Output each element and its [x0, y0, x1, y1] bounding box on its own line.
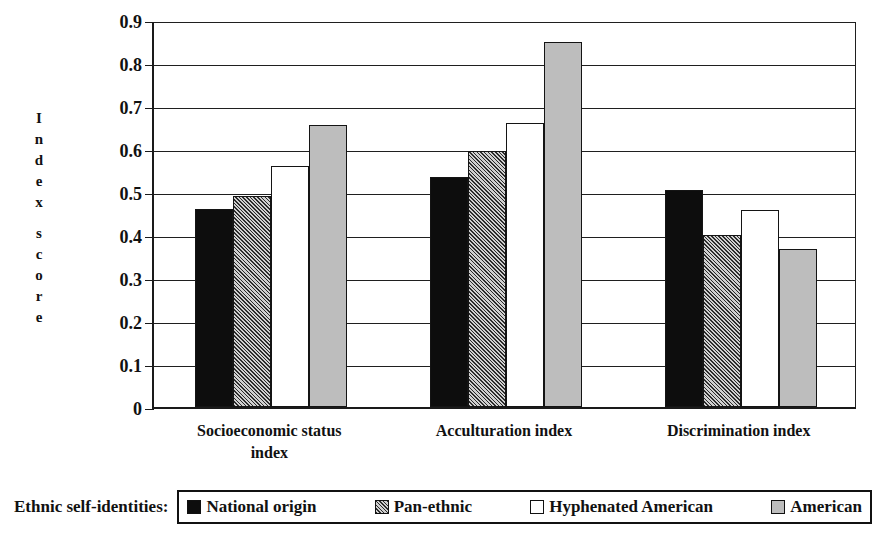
y-axis-title-letter: e [26, 171, 52, 192]
y-axis-tick-label: 0.1 [84, 357, 142, 375]
bar [544, 42, 582, 407]
y-axis-title-letter: n [26, 129, 52, 150]
y-axis-tick [145, 22, 154, 23]
bar [430, 177, 468, 407]
y-axis-title-letter: I [26, 108, 52, 129]
legend-item: American [771, 497, 862, 517]
legend-swatch-icon [187, 500, 201, 514]
y-axis-tick [145, 237, 154, 238]
legend-item: National origin [187, 497, 316, 517]
y-axis-tick [145, 151, 154, 152]
bar [468, 151, 506, 407]
y-axis-title-letter: c [26, 244, 52, 265]
y-axis-tick [145, 65, 154, 66]
bar [779, 249, 817, 407]
bar [703, 235, 741, 407]
legend-title: Ethnic self-identities: [14, 497, 168, 517]
y-axis-tick-label: 0.4 [84, 228, 142, 246]
y-axis-tick-label: 0.9 [84, 13, 142, 31]
y-axis-tick [145, 108, 154, 109]
legend-item-label: American [790, 497, 862, 517]
bar [665, 190, 703, 407]
legend-item: Hyphenated American [530, 497, 713, 517]
legend-item-label: Pan-ethnic [394, 497, 472, 517]
plot-area [152, 22, 856, 409]
y-axis-tick-label: 0.3 [84, 271, 142, 289]
bar [309, 125, 347, 407]
bar [271, 166, 309, 407]
x-axis-category-label: Socioeconomic status index [152, 420, 387, 464]
y-axis-title-letter: r [26, 286, 52, 307]
y-axis-title-letter: o [26, 265, 52, 286]
legend-item-label: Hyphenated American [549, 497, 713, 517]
bar [233, 196, 271, 407]
y-axis-title-spacer [26, 213, 52, 223]
bars-layer [154, 22, 856, 407]
y-axis-tick-label: 0.8 [84, 56, 142, 74]
legend-item: Pan-ethnic [375, 497, 472, 517]
x-axis-category-label: Acculturation index [387, 420, 622, 442]
y-axis-tick-label: 0.6 [84, 142, 142, 160]
legend-swatch-icon [530, 500, 544, 514]
y-axis-title-letter: d [26, 150, 52, 171]
y-axis-title-letter: s [26, 223, 52, 244]
bar [741, 210, 779, 407]
y-axis-tick-label: 0 [84, 400, 142, 418]
y-axis-tick [145, 194, 154, 195]
y-axis-tick-label: 0.2 [84, 314, 142, 332]
y-axis-tick [145, 366, 154, 367]
legend: Ethnic self-identities: National originP… [14, 489, 872, 525]
y-axis-tick-labels: 00.10.20.30.40.50.60.70.80.9 [78, 22, 142, 409]
y-axis-tick [145, 323, 154, 324]
x-axis-category-labels: Socioeconomic status indexAcculturation … [152, 420, 856, 476]
y-axis-tick-label: 0.5 [84, 185, 142, 203]
bar [506, 123, 544, 407]
legend-swatch-icon [375, 500, 389, 514]
y-axis-tick [145, 409, 154, 410]
bar-chart-figure: Indexscore 00.10.20.30.40.50.60.70.80.9 … [0, 0, 886, 552]
x-axis-category-label: Discrimination index [621, 420, 856, 442]
y-axis-title: Indexscore [26, 108, 52, 328]
y-axis-title-letter: e [26, 307, 52, 328]
y-axis-title-letter: x [26, 192, 52, 213]
legend-box: National originPan-ethnicHyphenated Amer… [177, 490, 872, 524]
legend-swatch-icon [771, 500, 785, 514]
bar [195, 209, 233, 407]
y-axis-tick-label: 0.7 [84, 99, 142, 117]
y-axis-tick [145, 280, 154, 281]
legend-item-label: National origin [206, 497, 316, 517]
